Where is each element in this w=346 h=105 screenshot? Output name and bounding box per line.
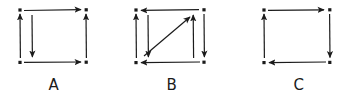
diagram-c-drawing <box>252 0 346 74</box>
diagram-c-label: C <box>252 76 346 94</box>
diagram-c-node-bottom-left <box>262 61 265 64</box>
diagram-c-node-top-left <box>262 8 265 11</box>
diagram-a-edge-top <box>24 10 81 11</box>
diagram-a-node-top-right <box>85 8 88 11</box>
diagram-b-edge-top <box>141 10 199 11</box>
diagram-b-edge-bottom <box>141 62 200 63</box>
diagram-c-node-bottom-right <box>328 61 331 64</box>
diagram-b-edge-diagonal <box>144 17 190 56</box>
diagram-c-edge-top <box>268 10 324 11</box>
diagram-b-label: B <box>124 76 220 94</box>
diagram-a-node-top-left <box>18 8 21 11</box>
diagram-c-node-top-right <box>328 8 331 11</box>
diagram-c: C <box>252 0 346 74</box>
diagram-b-node-top-left <box>134 8 137 11</box>
diagram-a-label: A <box>8 76 100 94</box>
diagram-b-node-bottom-right <box>202 61 205 64</box>
diagram-b-drawing <box>124 0 220 74</box>
diagram-b-node-top-right <box>202 8 205 11</box>
figure-canvas: A <box>0 0 346 105</box>
diagram-a: A <box>8 0 100 74</box>
diagram-c-edge-bottom <box>269 62 326 63</box>
diagram-b-node-bottom-left <box>134 61 137 64</box>
diagram-a-node-bottom-left <box>18 61 21 64</box>
diagram-a-node-bottom-right <box>85 61 88 64</box>
diagram-a-drawing <box>8 0 100 74</box>
diagram-b: B <box>124 0 220 74</box>
